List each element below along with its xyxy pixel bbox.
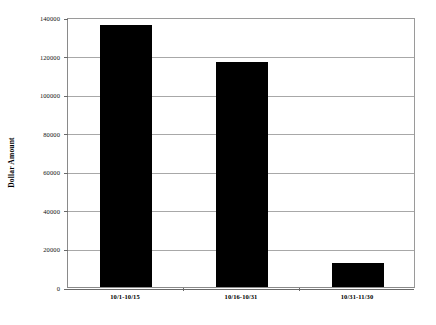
x-axis-tick-label: 10/1-10/15 (110, 293, 140, 300)
y-axis-tick-label: 140000 (40, 15, 60, 22)
x-axis-tick-label: 10/31-11/30 (341, 293, 374, 300)
x-axis-tick-labels: 10/1-10/1510/16-10/3110/31-11/30 (67, 293, 415, 309)
plot-area (67, 18, 415, 288)
x-axis-tick-mark (299, 288, 300, 291)
bars-layer (68, 19, 414, 287)
x-axis-tick-marks (67, 288, 415, 292)
y-axis-tick-label: 80000 (43, 130, 60, 137)
y-axis-tick-labels: 020000400006000080000100000120000140000 (14, 0, 64, 325)
y-axis-tick-label: 0 (57, 285, 60, 292)
y-axis-tick-label: 40000 (43, 207, 60, 214)
bar (100, 25, 153, 287)
bar (216, 62, 269, 287)
y-axis-tick-label: 120000 (40, 53, 60, 60)
y-axis-tick-label: 60000 (43, 169, 60, 176)
bar (332, 263, 385, 287)
y-axis-tick-label: 100000 (40, 92, 60, 99)
y-axis-tick-label: 20000 (43, 246, 60, 253)
x-axis-tick-mark (183, 288, 184, 291)
x-axis-tick-label: 10/16-10/31 (225, 293, 258, 300)
bar-chart: Dollar Amount 02000040000600008000010000… (0, 0, 436, 325)
